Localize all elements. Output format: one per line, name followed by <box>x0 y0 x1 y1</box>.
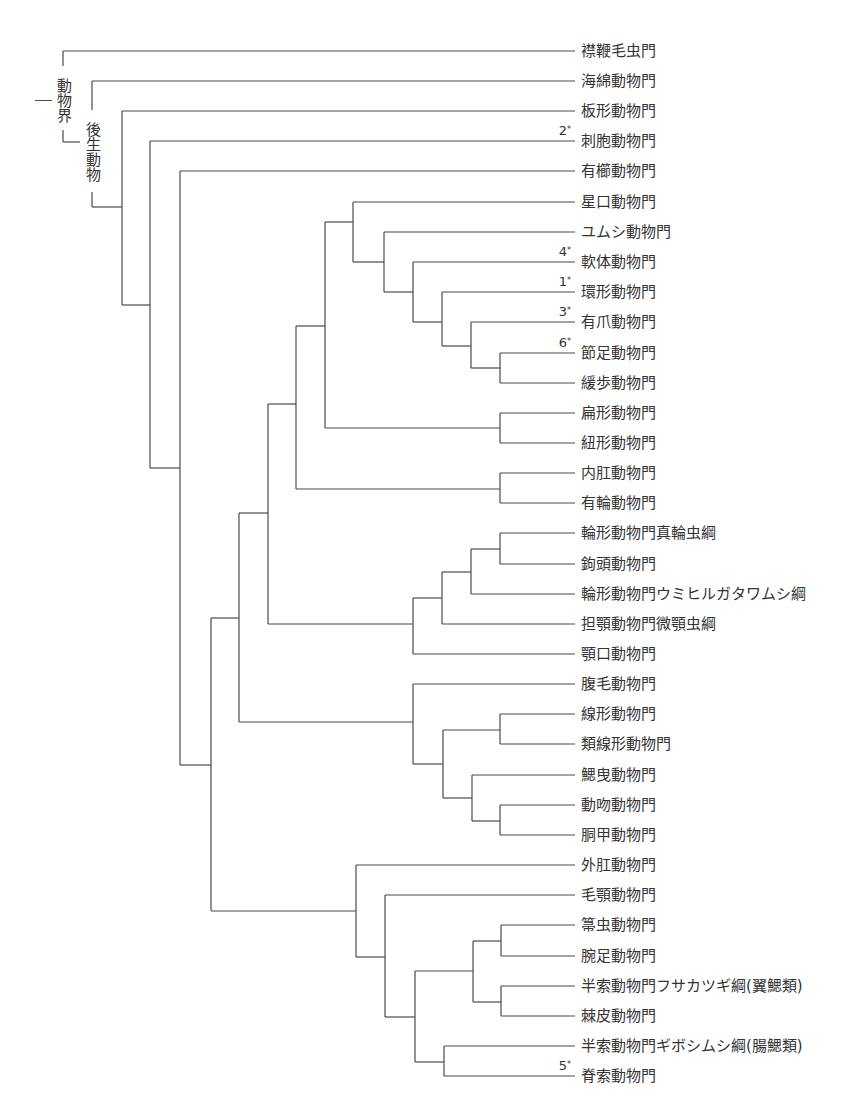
footnote-marker: 6* <box>549 336 571 350</box>
taxon-label: 扁形動物門 <box>581 404 656 422</box>
taxon-label: 顎口動物門 <box>581 645 656 663</box>
taxon-label: 鰓曳動物門 <box>581 766 656 784</box>
kingdom-label: 動物界 <box>54 70 72 130</box>
metazoa-label: 後生動物 <box>83 114 101 190</box>
taxon-label: 有爪動物門 <box>581 313 656 331</box>
taxon-label: 星口動物門 <box>581 193 656 211</box>
taxon-label: 外肛動物門 <box>581 856 656 874</box>
taxon-label: 線形動物門 <box>581 705 656 723</box>
taxon-label: 襟鞭毛虫門 <box>581 42 656 60</box>
phylogenetic-tree <box>0 0 862 1103</box>
taxon-label: 海綿動物門 <box>581 72 656 90</box>
taxon-label: 板形動物門 <box>581 102 656 120</box>
taxon-label: 脊索動物門 <box>581 1067 656 1085</box>
taxon-label: 腹毛動物門 <box>581 675 656 693</box>
footnote-marker: 1* <box>549 275 571 289</box>
taxon-label: 担顎動物門微顎虫綱 <box>581 615 716 633</box>
taxon-label: 有櫛動物門 <box>581 162 656 180</box>
taxon-label: 輪形動物門ウミヒルガタワムシ綱 <box>581 585 806 603</box>
taxon-label: 緩歩動物門 <box>581 374 656 392</box>
taxon-label: 箒虫動物門 <box>581 916 656 934</box>
taxon-label: 紐形動物門 <box>581 434 656 452</box>
footnote-marker: 4* <box>549 245 571 259</box>
taxon-label: 内肛動物門 <box>581 464 656 482</box>
root-stem <box>35 100 52 101</box>
taxon-label: 胴甲動物門 <box>581 826 656 844</box>
footnote-marker: 3* <box>549 305 571 319</box>
taxon-label: 棘皮動物門 <box>581 1007 656 1025</box>
taxon-label: 類線形動物門 <box>581 735 671 753</box>
taxon-label: 鉤頭動物門 <box>581 555 656 573</box>
taxon-label: 半索動物門ギボシムシ綱(腸鰓類) <box>581 1037 803 1055</box>
taxon-label: 有輪動物門 <box>581 494 656 512</box>
taxon-label: 動吻動物門 <box>581 796 656 814</box>
footnote-marker: 2* <box>549 124 571 138</box>
taxon-label: 節足動物門 <box>581 344 656 362</box>
taxon-label: 輪形動物門真輪虫綱 <box>581 524 716 542</box>
footnote-marker: 5* <box>549 1059 571 1073</box>
taxon-label: ユムシ動物門 <box>581 223 671 241</box>
taxon-label: 軟体動物門 <box>581 253 656 271</box>
taxon-label: 環形動物門 <box>581 283 656 301</box>
taxon-label: 刺胞動物門 <box>581 132 656 150</box>
taxon-label: 毛顎動物門 <box>581 886 656 904</box>
taxon-label: 半索動物門フサカツギ綱(翼鰓類) <box>581 977 803 995</box>
taxon-label: 腕足動物門 <box>581 947 656 965</box>
